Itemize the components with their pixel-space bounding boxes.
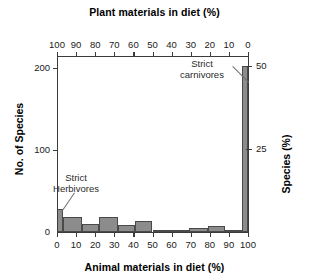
annotation-strict-herbivores-line2: Herbivores (36, 183, 116, 194)
y-tick-100 (53, 150, 58, 151)
x-tick-100 (248, 233, 249, 237)
annotation-strict-carnivores-line1: Strict (162, 58, 242, 69)
top-tick-90 (76, 52, 77, 56)
axis-left (57, 56, 58, 233)
annotation-strict-herbivores-line1: Strict (36, 172, 116, 183)
annotation-strict-carnivores-line2: carnivores (162, 69, 242, 80)
y-right-tick-label-50: 50 (256, 60, 282, 71)
bar-10-20 (82, 224, 99, 232)
y-tick-200 (53, 68, 58, 69)
top-tick-100 (57, 52, 58, 56)
top-tick-70 (114, 52, 115, 56)
top-tick-30 (191, 52, 192, 56)
top-tick-20 (210, 52, 211, 56)
x-tick-30 (114, 233, 115, 237)
x-tick-label-100: 100 (234, 239, 262, 250)
y-right-tick-label-25: 25 (256, 143, 282, 154)
top-tick-40 (172, 52, 173, 56)
top-tick-60 (133, 52, 134, 56)
y-right-tick-50 (246, 66, 252, 67)
bar-20-30 (99, 217, 118, 232)
x-tick-90 (229, 233, 230, 237)
bar-30-40 (118, 225, 135, 232)
top-tick-80 (95, 52, 96, 56)
x-tick-50 (153, 233, 154, 237)
top-tick-10 (229, 52, 230, 56)
annotation-strict-herbivores: Strict Herbivores (36, 172, 116, 194)
left-axis-title: No. of Species (13, 91, 25, 187)
chart-figure: Plant materials in diet (%) Animal mater… (0, 0, 309, 280)
y-tick-label-200: 200 (17, 62, 50, 73)
x-tick-40 (133, 233, 134, 237)
x-tick-0 (57, 233, 58, 237)
x-tick-70 (191, 233, 192, 237)
y-right-tick-25 (246, 149, 252, 150)
bottom-axis-title: Animal materials in diet (%) (0, 261, 309, 273)
x-tick-60 (172, 233, 173, 237)
bar-40-50 (135, 221, 152, 232)
bar-0-10 (63, 217, 82, 232)
annotation-strict-carnivores: Strict carnivores (162, 58, 242, 80)
x-tick-80 (210, 233, 211, 237)
x-tick-10 (76, 233, 77, 237)
top-tick-50 (153, 52, 154, 56)
top-tick-0 (248, 52, 249, 56)
right-axis-title: Species (%) (280, 127, 292, 201)
top-axis-title: Plant materials in diet (%) (0, 6, 309, 18)
top-tick-label-0: 0 (234, 39, 262, 50)
y-tick-label-0: 0 (17, 226, 50, 237)
x-tick-20 (95, 233, 96, 237)
y-tick-label-100: 100 (17, 144, 50, 155)
leader-line-strict-herbivores (61, 192, 75, 212)
